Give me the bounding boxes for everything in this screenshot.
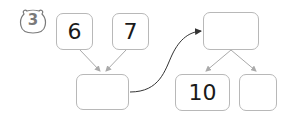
arrow-7-to-sum bbox=[106, 50, 126, 71]
box-target-answer[interactable] bbox=[203, 12, 259, 50]
box-addend-1: 6 bbox=[56, 13, 93, 50]
arrow-target-to-right bbox=[231, 50, 256, 71]
box-sum-answer[interactable] bbox=[76, 74, 129, 110]
box-addend-2: 7 bbox=[112, 13, 149, 50]
arrow-target-to-left bbox=[206, 50, 231, 71]
problem-number: 3 bbox=[19, 11, 47, 29]
box-split-right-answer[interactable] bbox=[239, 74, 277, 111]
arrow-6-to-sum bbox=[80, 50, 100, 71]
box-split-left: 10 bbox=[175, 74, 230, 111]
